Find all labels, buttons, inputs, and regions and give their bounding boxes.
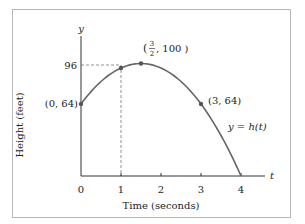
curve-label: y = h(t) <box>227 121 267 132</box>
x-tick-1: 1 <box>118 184 124 195</box>
label-0-64: (0, 64) <box>45 98 78 109</box>
t-axis-symbol: t <box>270 170 275 181</box>
point-0-64 <box>79 102 83 106</box>
svg-text:2: 2 <box>150 50 154 58</box>
label-vertex: ( 3 2 , 100 ) <box>143 40 189 58</box>
chart-svg: 0 1 2 3 4 96 t y Time (seconds) Height (… <box>0 0 305 224</box>
y-tick-96: 96 <box>64 60 77 71</box>
point-vertex <box>139 61 143 65</box>
x-tick-3: 3 <box>198 184 204 195</box>
point-1-96 <box>119 66 123 70</box>
point-3-64 <box>199 102 203 106</box>
y-axis-title: Height (feet) <box>14 92 25 157</box>
x-tick-4: 4 <box>238 184 244 195</box>
x-tick-0: 0 <box>78 184 84 195</box>
svg-text:(: ( <box>143 42 147 55</box>
svg-text:, 100 ): , 100 ) <box>156 43 189 54</box>
svg-text:3: 3 <box>150 40 154 48</box>
curve-h-of-t <box>81 64 241 177</box>
label-3-64: (3, 64) <box>208 95 241 106</box>
y-axis-symbol: y <box>77 23 84 34</box>
x-axis-title: Time (seconds) <box>123 200 200 211</box>
x-tick-2: 2 <box>158 184 164 195</box>
